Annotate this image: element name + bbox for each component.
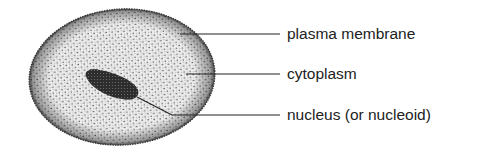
plasma-membrane-label: plasma membrane	[287, 26, 415, 42]
cell-diagram	[0, 0, 498, 156]
cell-body	[24, 3, 219, 152]
nucleus-label: nucleus (or nucleoid)	[287, 107, 431, 123]
cytoplasm-label: cytoplasm	[287, 66, 357, 82]
